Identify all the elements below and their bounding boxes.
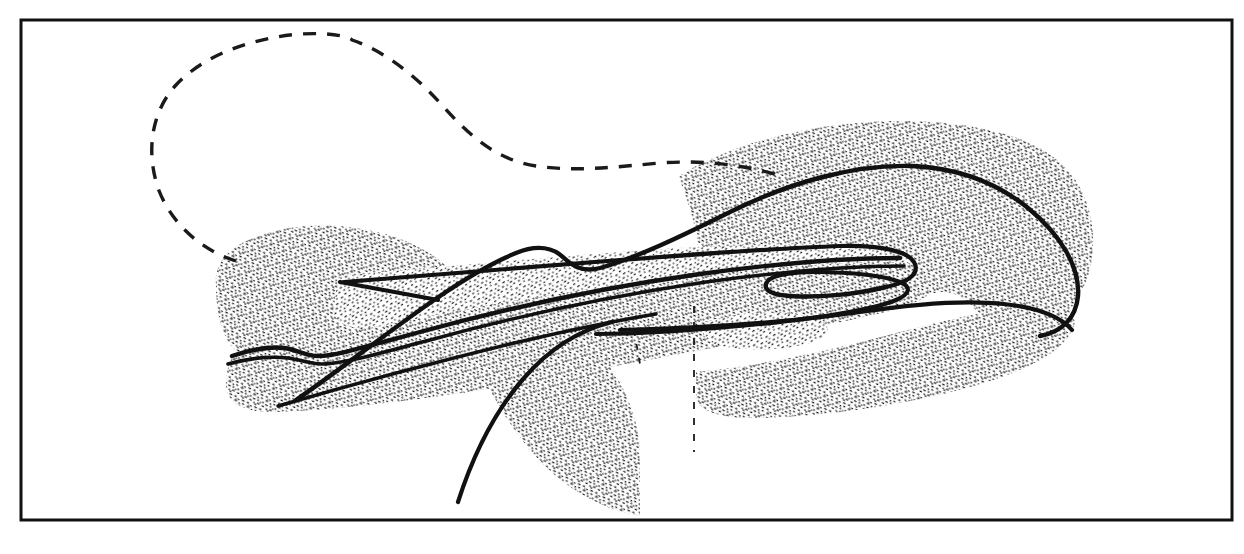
geological-cross-section-figure <box>0 0 1244 554</box>
figure-page <box>0 0 1244 554</box>
